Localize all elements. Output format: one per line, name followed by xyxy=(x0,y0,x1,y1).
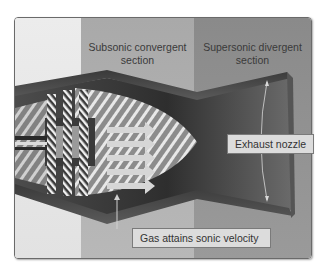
turbine-blade-1 xyxy=(47,94,56,194)
gas-sonic-velocity-callout: Gas attains sonic velocity xyxy=(132,228,271,248)
turbine-blade-3 xyxy=(79,90,88,196)
exhaust-nozzle-callout: Exhaust nozzle xyxy=(227,134,314,154)
turbine-blade-2 xyxy=(63,90,72,196)
flow-arrows xyxy=(107,122,155,194)
